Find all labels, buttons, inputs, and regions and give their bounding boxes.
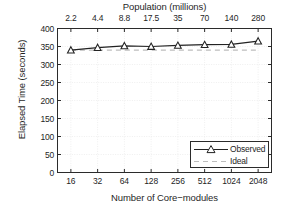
legend-item-ideal: Ideal [191,155,268,168]
chart-legend: Observed Ideal [190,141,269,168]
legend-label-observed: Observed [230,144,265,155]
chart-figure: Population (millions) 2.24.48.817.535701… [0,0,283,214]
legend-swatch-ideal [194,155,228,168]
legend-label-ideal: Ideal [230,156,247,167]
tick-label: 2048 [242,176,274,186]
bottom-axis-title: Number of Core−modules [57,192,272,203]
series-observed [67,38,261,53]
